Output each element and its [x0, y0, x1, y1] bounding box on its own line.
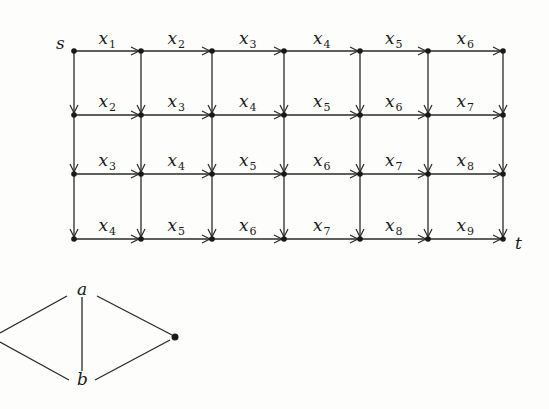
edge-label: x3: [99, 150, 117, 173]
grid-node: [281, 236, 287, 242]
edge-label: x6: [385, 91, 403, 114]
edge-label: x5: [313, 91, 331, 114]
diagram-canvas: x1x2x3x4x5x6x2x3x4x5x6x7x3x4x5x6x7x8x4x5…: [0, 0, 549, 409]
diagram-svg: x1x2x3x4x5x6x2x3x4x5x6x7x3x4x5x6x7x8x4x5…: [0, 0, 549, 409]
grid-node: [281, 171, 287, 177]
grid-node: [500, 236, 506, 242]
grid-node: [209, 171, 215, 177]
grid-node: [500, 171, 506, 177]
grid-node: [71, 48, 77, 54]
grid-node: [138, 48, 144, 54]
edge-label: x8: [457, 150, 475, 173]
grid-edges: [70, 47, 507, 243]
edge-label: x7: [457, 91, 475, 114]
grid-node: [500, 48, 506, 54]
edge-label: x6: [457, 28, 475, 51]
grid-node: [425, 48, 431, 54]
edge-label: x7: [313, 215, 331, 238]
edge-label: x6: [313, 150, 331, 173]
edge-label: x5: [385, 28, 403, 51]
grid-node: [209, 112, 215, 118]
edge-label: x6: [239, 215, 257, 238]
grid-node: [281, 112, 287, 118]
vertex-label-a: a: [77, 279, 87, 299]
edge-label: x4: [99, 215, 117, 238]
edge-label: x9: [457, 215, 475, 238]
edge-label: x4: [313, 28, 331, 51]
edge-label: x5: [168, 215, 186, 238]
grid-node: [138, 236, 144, 242]
grid-edge-labels: x1x2x3x4x5x6x2x3x4x5x6x7x3x4x5x6x7x8x4x5…: [99, 28, 475, 238]
grid-node: [425, 112, 431, 118]
grid-node: [357, 48, 363, 54]
edge-label: x7: [385, 150, 403, 173]
sink-label: t: [515, 233, 522, 253]
grid-node: [357, 236, 363, 242]
grid-node: [71, 171, 77, 177]
grid-node: [138, 171, 144, 177]
grid-node: [357, 171, 363, 177]
edge-label: x2: [168, 28, 186, 51]
grid-node: [71, 236, 77, 242]
edge-label: x5: [239, 150, 257, 173]
vertex-label-b: b: [77, 369, 88, 389]
small-graph-edge: [0, 296, 67, 333]
edge-label: x4: [168, 150, 186, 173]
grid-node: [209, 48, 215, 54]
edge-label: x3: [239, 28, 257, 51]
grid-node: [209, 236, 215, 242]
edge-label: x8: [385, 215, 403, 238]
edge-label: x4: [239, 91, 257, 114]
grid-node: [281, 48, 287, 54]
grid-node: [71, 112, 77, 118]
grid-node: [425, 236, 431, 242]
source-label: s: [56, 33, 65, 53]
grid-node: [357, 112, 363, 118]
small-graph-edge: [95, 340, 170, 380]
edge-label: x2: [99, 91, 117, 114]
grid-nodes: [71, 48, 506, 242]
small-graph: ab: [0, 279, 179, 389]
small-graph-vertex: [172, 334, 179, 341]
grid-node: [500, 112, 506, 118]
edge-label: x3: [168, 91, 186, 114]
grid-node: [425, 171, 431, 177]
small-graph-edge: [0, 342, 69, 380]
edge-label: x1: [99, 28, 117, 51]
grid-node: [138, 112, 144, 118]
small-graph-edge: [97, 296, 172, 335]
